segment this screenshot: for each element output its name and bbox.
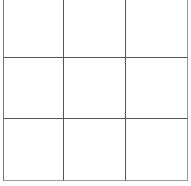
cell-2-1[interactable] [64,119,126,181]
cell-1-2[interactable] [126,58,188,119]
cell-2-2[interactable] [126,119,188,181]
cell-1-0[interactable] [3,58,64,119]
cell-1-1[interactable] [64,58,126,119]
cell-0-0[interactable] [3,0,64,58]
cell-2-0[interactable] [3,119,64,181]
cell-0-2[interactable] [126,0,188,58]
tic-tac-toe-board [3,0,189,182]
cell-0-1[interactable] [64,0,126,58]
